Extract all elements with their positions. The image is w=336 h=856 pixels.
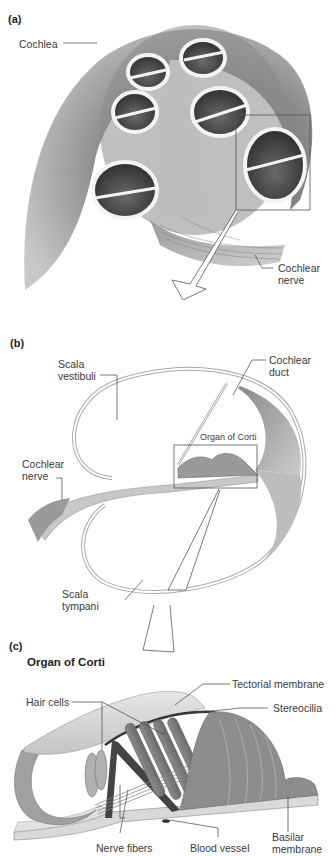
panel-a-tag: (a) [8,13,21,25]
panel-a-cochlea-cross-section: (a) Cochlea Cochlear nerve [0,0,336,300]
label-nerve-fibers: Nerve fibers [96,842,153,854]
label-cochlear-nerve-a: Cochlear nerve [278,262,320,286]
label-cochlear-nerve-b: Cochlear nerve [22,458,64,482]
label-cochlea: Cochlea [19,38,58,50]
panel-b-tag: (b) [10,337,24,349]
leader-blood-vessel [170,820,218,837]
label-scala-vestibuli: Scala vestibuli [58,358,96,382]
label-tectorial-membrane: Tectorial membrane [232,678,324,690]
panel-c-title: Organ of Corti [27,656,105,668]
panel-b-cochlear-duct: (b) Scala vestibuli Cochlear duct Organ … [0,300,336,600]
label-stereocilia: Stereocilia [273,702,322,714]
panel-c-organ-of-corti: (c) Organ of Corti Tectorial membrane Ha… [0,600,336,856]
panel-c-tag: (c) [9,640,22,652]
label-blood-vessel: Blood vessel [190,842,250,854]
label-organ-of-corti-b: Organ of Corti [200,431,257,443]
label-cochlear-duct: Cochlear duct [269,354,311,378]
label-basilar-membrane: Basilar membrane [272,831,322,855]
cochlear-duct-illustration [0,300,336,600]
label-hair-cells: Hair cells [26,696,69,708]
organ-of-corti-illustration [0,600,336,856]
